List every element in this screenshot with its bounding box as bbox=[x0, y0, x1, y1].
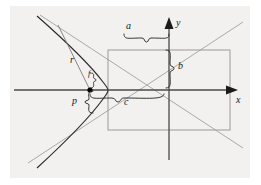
asymptote-line-1 bbox=[40, 15, 243, 148]
label-c: c bbox=[124, 97, 128, 107]
axis-label-y: y bbox=[176, 18, 180, 28]
brace-a bbox=[124, 34, 169, 42]
axis-label-x: x bbox=[236, 95, 240, 105]
asymptote-line-2 bbox=[28, 22, 243, 163]
hyperbola-figure: a b c p r f x y bbox=[0, 0, 261, 185]
radius-line-r bbox=[58, 25, 90, 90]
label-p: p bbox=[72, 96, 77, 106]
brace-p bbox=[85, 91, 93, 113]
label-a: a bbox=[126, 21, 131, 31]
brace-b bbox=[166, 50, 174, 88]
axes-group bbox=[14, 17, 238, 160]
hyperbola-curve bbox=[37, 16, 108, 168]
label-b: b bbox=[178, 61, 183, 71]
label-f: f bbox=[88, 70, 90, 78]
y-axis-arrow-icon bbox=[165, 17, 174, 29]
brace-f bbox=[90, 73, 96, 88]
label-r: r bbox=[70, 55, 74, 65]
